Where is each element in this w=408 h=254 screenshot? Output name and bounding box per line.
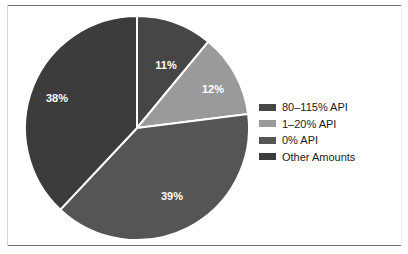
legend-color-swatch [259, 120, 276, 127]
legend-item[interactable]: 1–20% API [259, 116, 399, 133]
legend-item[interactable]: 80–115% API [259, 99, 399, 116]
pie-chart-figure: 11%12%39%38% 80–115% API1–20% API0% APIO… [0, 0, 408, 254]
legend-item-label: Other Amounts [282, 151, 355, 163]
legend-color-swatch [259, 137, 276, 144]
legend-item[interactable]: Other Amounts [259, 149, 399, 166]
pie-slice-value-label: 39% [161, 190, 183, 202]
pie-slice-value-label: 38% [46, 92, 68, 104]
legend-item[interactable]: 0% API [259, 132, 399, 149]
legend-color-swatch [259, 104, 276, 111]
pie-slice-group [25, 16, 249, 240]
chart-legend: 80–115% API1–20% API0% APIOther Amounts [259, 99, 399, 165]
legend-item-label: 80–115% API [282, 101, 348, 113]
legend-item-label: 0% API [282, 134, 318, 146]
legend-item-label: 1–20% API [282, 118, 336, 130]
pie-slice-value-label: 12% [202, 83, 224, 95]
legend-color-swatch [259, 153, 276, 160]
pie-slice-value-label: 11% [155, 59, 177, 71]
